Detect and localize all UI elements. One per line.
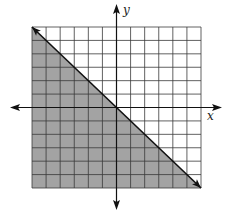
x-axis-label: x	[207, 109, 214, 123]
inequality-graph: x y	[0, 0, 230, 213]
y-axis-label: y	[122, 3, 130, 17]
